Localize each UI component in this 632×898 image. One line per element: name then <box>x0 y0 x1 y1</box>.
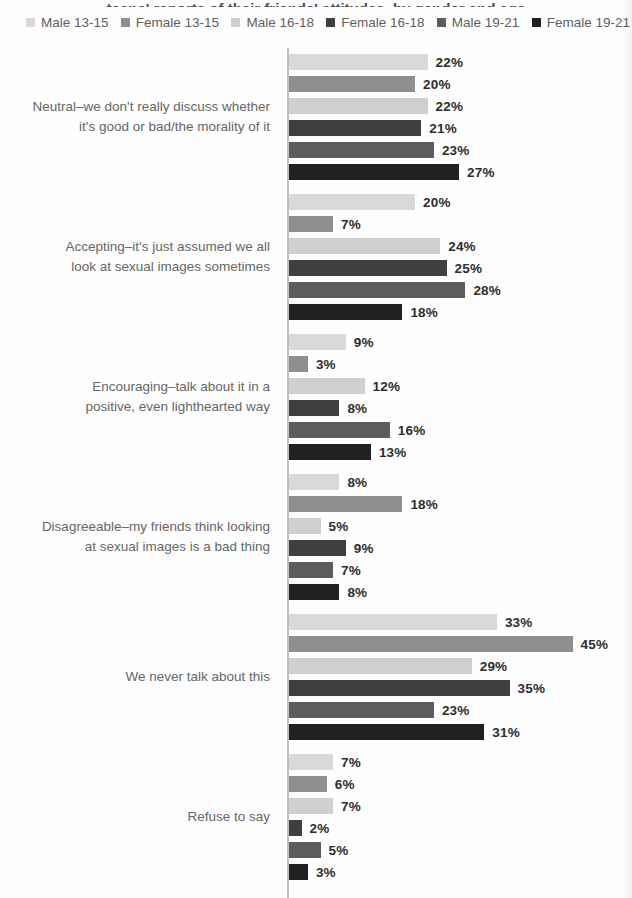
bar <box>289 304 402 320</box>
value-label: 7% <box>341 799 361 814</box>
bar-row: 24% <box>289 238 632 254</box>
bar <box>289 540 346 556</box>
bar-row: 23% <box>289 702 632 718</box>
value-label: 25% <box>455 261 483 276</box>
legend-swatch-icon <box>121 18 130 27</box>
bar-group: Accepting–it's just assumed we all look … <box>0 194 632 320</box>
bar-row: 25% <box>289 260 632 276</box>
category-label: Disagreeable–my friends think looking at… <box>0 517 276 558</box>
bar-row: 18% <box>289 304 632 320</box>
value-label: 23% <box>442 703 470 718</box>
bar-row: 7% <box>289 216 632 232</box>
bar <box>289 680 510 696</box>
bar <box>289 702 434 718</box>
legend-item-female-13-15: Female 13-15 <box>121 15 219 30</box>
value-label: 9% <box>354 541 374 556</box>
value-label: 13% <box>379 445 407 460</box>
category-label: Refuse to say <box>0 807 276 827</box>
value-label: 23% <box>442 143 470 158</box>
bar-stack: 33% 45% 29% 35% 23% 31% <box>289 614 632 740</box>
bar-row: 33% <box>289 614 632 630</box>
bar <box>289 820 302 836</box>
value-label: 29% <box>480 659 508 674</box>
bar-row: 8% <box>289 584 632 600</box>
bar <box>289 54 428 70</box>
bar <box>289 474 339 490</box>
bar <box>289 864 308 880</box>
value-label: 18% <box>410 497 438 512</box>
value-label: 33% <box>505 615 533 630</box>
value-label: 20% <box>423 195 451 210</box>
bar-row: 5% <box>289 518 632 534</box>
bar-group: We never talk about this 33% 45% 29% 35%… <box>0 614 632 740</box>
bar-row: 13% <box>289 444 632 460</box>
bar-row: 16% <box>289 422 632 438</box>
value-label: 12% <box>373 379 401 394</box>
value-label: 5% <box>329 843 349 858</box>
bar-row: 20% <box>289 194 632 210</box>
value-label: 7% <box>341 755 361 770</box>
bar <box>289 260 447 276</box>
legend-swatch-icon <box>231 18 240 27</box>
legend-swatch-icon <box>326 18 335 27</box>
bar <box>289 98 428 114</box>
bar-row: 7% <box>289 754 632 770</box>
value-label: 8% <box>347 401 367 416</box>
value-label: 35% <box>518 681 546 696</box>
value-label: 2% <box>310 821 330 836</box>
bar-group: Neutral–we don't really discuss whether … <box>0 54 632 180</box>
bar <box>289 776 327 792</box>
bar <box>289 334 346 350</box>
bar <box>289 496 402 512</box>
bar-stack: 7% 6% 7% 2% 5% 3% <box>289 754 632 880</box>
value-label: 6% <box>335 777 355 792</box>
legend-label: Female 16-18 <box>341 15 424 30</box>
bar-row: 2% <box>289 820 632 836</box>
bar <box>289 142 434 158</box>
bar-row: 5% <box>289 842 632 858</box>
bar-row: 22% <box>289 54 632 70</box>
bar <box>289 422 390 438</box>
value-label: 18% <box>410 305 438 320</box>
bar-row: 8% <box>289 474 632 490</box>
bar-row: 31% <box>289 724 632 740</box>
bar-row: 6% <box>289 776 632 792</box>
bar <box>289 194 415 210</box>
page: { "cropped_title_fragment": "teens' repo… <box>0 0 632 898</box>
value-label: 21% <box>429 121 457 136</box>
bar <box>289 614 497 630</box>
bar <box>289 842 321 858</box>
bar-row: 9% <box>289 540 632 556</box>
bar-stack: 9% 3% 12% 8% 16% 13% <box>289 334 632 460</box>
legend-item-male-19-21: Male 19-21 <box>437 15 520 30</box>
legend-label: Female 13-15 <box>136 15 219 30</box>
value-label: 28% <box>473 283 501 298</box>
bar <box>289 120 421 136</box>
bar-row: 18% <box>289 496 632 512</box>
bar <box>289 400 339 416</box>
value-label: 8% <box>347 475 367 490</box>
value-label: 20% <box>423 77 451 92</box>
bar-row: 45% <box>289 636 632 652</box>
legend-item-male-16-18: Male 16-18 <box>231 15 314 30</box>
value-label: 45% <box>581 637 609 652</box>
bar-groups: Neutral–we don't really discuss whether … <box>0 54 632 880</box>
bar <box>289 584 339 600</box>
bar-row: 28% <box>289 282 632 298</box>
bar <box>289 216 333 232</box>
bar <box>289 562 333 578</box>
legend-swatch-icon <box>532 18 541 27</box>
value-label: 24% <box>448 239 476 254</box>
bar-stack: 8% 18% 5% 9% 7% 8% <box>289 474 632 600</box>
bar <box>289 724 484 740</box>
bar <box>289 798 333 814</box>
bar-group: Refuse to say 7% 6% 7% 2% 5% 3% <box>0 754 632 880</box>
bar-group: Encouraging–talk about it in a positive,… <box>0 334 632 460</box>
bar-row: 21% <box>289 120 632 136</box>
bar-group: Disagreeable–my friends think looking at… <box>0 474 632 600</box>
value-label: 16% <box>398 423 426 438</box>
legend: Male 13-15 Female 13-15 Male 16-18 Femal… <box>26 15 630 30</box>
legend-item-female-16-18: Female 16-18 <box>326 15 424 30</box>
legend-label: Male 19-21 <box>452 15 520 30</box>
value-label: 31% <box>492 725 520 740</box>
